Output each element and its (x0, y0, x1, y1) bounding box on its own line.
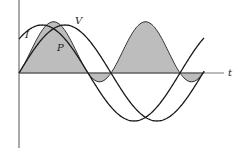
power-label: P (57, 43, 64, 53)
time-axis-label: t (228, 68, 232, 78)
current-label: I (25, 30, 29, 40)
waveform-diagram (0, 0, 244, 155)
voltage-label: V (75, 16, 82, 26)
